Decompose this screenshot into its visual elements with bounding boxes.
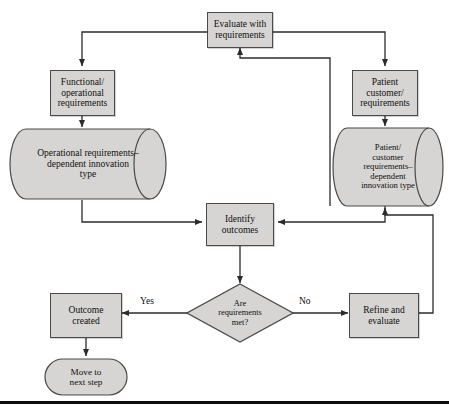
edge-patient-cylinder-to-evaluate — [240, 48, 330, 206]
edge-evaluate-to-functional — [82, 32, 207, 66]
node-evaluate-with-requirements[interactable]: Evaluate with requirements — [207, 12, 273, 48]
node-label: Move to next step — [44, 358, 128, 396]
node-label: Are requirements met? — [186, 283, 294, 343]
node-label: Functional/ operational requirements — [56, 77, 110, 109]
node-identify-outcomes[interactable]: Identify outcomes — [206, 203, 274, 246]
node-label: Patient/ customer requirements– dependen… — [332, 127, 449, 207]
node-are-requirements-met[interactable]: Are requirements met? — [186, 283, 294, 343]
node-operational-requirements-dependent-innovation-type[interactable]: Operational requirements– dependent inno… — [8, 128, 168, 200]
node-refine-and-evaluate[interactable]: Refine and evaluate — [349, 293, 419, 338]
edge-operational-cylinder-to-identify — [82, 200, 202, 222]
edge-label-yes: Yes — [140, 296, 154, 306]
node-patient-customer-requirements[interactable]: Patient customer/ requirements — [352, 70, 418, 116]
node-patient-customer-requirements-dependent-innovation-type[interactable]: Patient/ customer requirements– dependen… — [332, 127, 444, 207]
node-move-to-next-step[interactable]: Move to next step — [44, 358, 128, 396]
bottom-divider — [0, 401, 449, 404]
node-label: Patient customer/ requirements — [358, 77, 412, 109]
node-outcome-created[interactable]: Outcome created — [50, 293, 122, 338]
node-label: Refine and evaluate — [361, 305, 406, 326]
edge-label-no: No — [299, 296, 311, 306]
node-label: Outcome created — [67, 305, 106, 326]
flowchart-canvas: Evaluate with requirements Functional/ o… — [0, 0, 449, 418]
node-label: Evaluate with requirements — [212, 19, 269, 40]
edge-evaluate-to-patient — [272, 32, 385, 66]
node-label: Operational requirements– dependent inno… — [8, 128, 188, 200]
edge-patient-cylinder-to-identify — [278, 206, 385, 222]
node-label: Identify outcomes — [220, 214, 260, 235]
node-functional-operational-requirements[interactable]: Functional/ operational requirements — [50, 70, 115, 116]
